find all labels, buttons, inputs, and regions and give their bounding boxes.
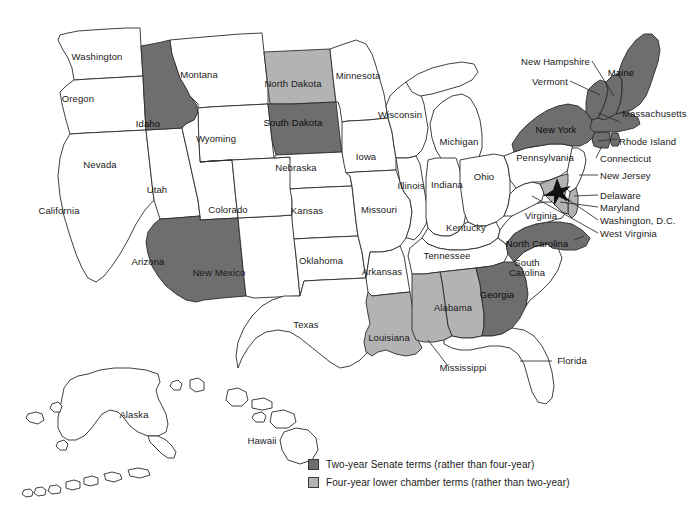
state-north-dakota[interactable] (264, 49, 336, 104)
legend-label-two-year-senate: Two-year Senate terms (rather than four-… (326, 459, 534, 470)
aleutian-6[interactable] (104, 472, 122, 482)
callout-label-delaware: Delaware (600, 190, 641, 201)
state-oregon[interactable] (60, 76, 146, 134)
callout-label-rhode-island: Rhode Island (619, 136, 676, 147)
state-iowa[interactable] (342, 118, 396, 173)
alaska-panhandle[interactable] (148, 436, 176, 458)
callout-label-new-jersey: New Jersey (600, 170, 651, 181)
hawaii-oahu[interactable] (226, 388, 248, 406)
legend-swatch-two-year-senate (308, 459, 319, 470)
state-ohio[interactable] (460, 154, 510, 226)
aleutian-1[interactable] (84, 476, 98, 486)
callout-label-maryland: Maryland (600, 202, 640, 213)
alaska-island-1[interactable] (50, 402, 62, 412)
state-michigan-up[interactable] (406, 62, 478, 96)
state-georgia[interactable] (476, 262, 528, 336)
legend-swatch-four-year-lower (308, 477, 319, 488)
callout-label-west-virginia: West Virginia (600, 228, 657, 239)
alaska-island-2[interactable] (26, 412, 44, 424)
state-kansas[interactable] (290, 186, 358, 239)
callout-label-washington-dc: Washington, D.C. (600, 215, 676, 226)
callout-label-vermont: Vermont (532, 76, 568, 87)
map-svg (0, 0, 688, 517)
state-alaska[interactable] (58, 368, 168, 440)
state-washington[interactable] (58, 28, 143, 80)
state-wyoming[interactable] (198, 104, 274, 162)
legend-item-two-year-senate[interactable]: Two-year Senate terms (rather than four-… (308, 456, 648, 472)
legend-label-four-year-lower: Four-year lower chamber terms (rather th… (326, 477, 570, 488)
state-maine[interactable] (616, 34, 660, 114)
callout-label-connecticut: Connecticut (600, 153, 651, 164)
state-arkansas[interactable] (366, 246, 410, 296)
aleutian-4[interactable] (34, 487, 46, 496)
aleutian-7[interactable] (128, 468, 150, 478)
hawaii-niihau[interactable] (170, 380, 182, 390)
state-minnesota[interactable] (330, 40, 388, 122)
state-new-mexico[interactable] (238, 215, 300, 298)
hawaii-kauai[interactable] (190, 378, 204, 392)
state-california[interactable] (58, 130, 154, 282)
state-florida[interactable] (444, 328, 554, 404)
hawaii-maui[interactable] (270, 410, 296, 428)
aleutian-5[interactable] (22, 489, 33, 497)
aleutian-3[interactable] (48, 485, 61, 494)
callout-label-massachusetts: Massachusetts (622, 108, 687, 119)
legend-item-four-year-lower[interactable]: Four-year lower chamber terms (rather th… (308, 474, 648, 490)
us-map-figure: Washington Oregon California Nevada Idah… (0, 0, 688, 517)
state-arizona[interactable] (146, 216, 246, 302)
map-legend: Two-year Senate terms (rather than four-… (308, 456, 648, 492)
hawaii-molokai[interactable] (252, 398, 272, 410)
callout-label-new-hampshire: New Hampshire (521, 56, 590, 67)
state-south-dakota[interactable] (268, 102, 342, 155)
aleutian-2[interactable] (66, 480, 80, 490)
alaska-island-3[interactable] (56, 440, 68, 450)
hawaii-lanai[interactable] (252, 412, 266, 422)
